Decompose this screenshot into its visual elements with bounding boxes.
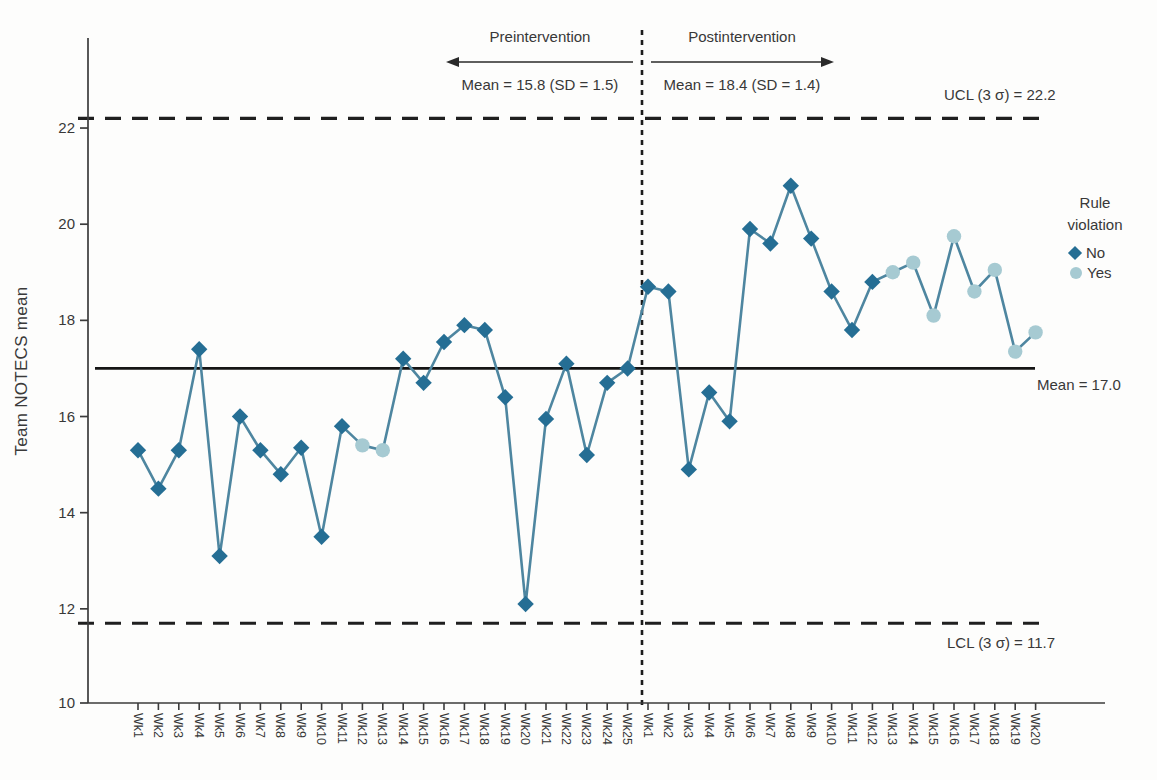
y-tick-label: 14 (58, 504, 75, 521)
postintervention-stats: Mean = 18.4 (SD = 1.4) (642, 76, 842, 93)
x-tick-label: Wk19 (498, 713, 512, 745)
x-tick-label: Wk14 (906, 713, 920, 745)
data-point-marker-yes (376, 443, 390, 457)
y-tick-label: 10 (58, 694, 75, 711)
data-point-marker-yes (355, 438, 369, 452)
x-tick-label: Wk9 (294, 713, 308, 738)
legend-item-no-label: No (1086, 244, 1105, 261)
x-tick-label: Wk22 (559, 713, 573, 745)
x-tick-label: Wk8 (783, 713, 797, 738)
x-tick-label: Wk15 (416, 713, 430, 745)
x-tick-label: Wk19 (1008, 713, 1022, 745)
x-tick-label: Wk12 (355, 713, 369, 745)
x-tick-label: Wk13 (375, 713, 389, 745)
mean-line-label: Mean = 17.0 (1037, 376, 1121, 393)
x-tick-label: Wk11 (335, 713, 349, 744)
x-tick-label: Wk11 (845, 713, 859, 744)
x-tick-label: Wk16 (437, 713, 451, 745)
lcl-label: LCL (3 σ) = 11.7 (947, 634, 1055, 651)
x-tick-label: Wk8 (273, 713, 287, 738)
data-point-marker-no (477, 322, 493, 338)
data-point-marker-no (864, 274, 880, 290)
data-point-marker-no (517, 596, 533, 612)
x-tick-label: Wk12 (865, 713, 879, 745)
x-tick-label: Wk6 (233, 713, 247, 738)
x-tick-label: Wk6 (743, 713, 757, 738)
x-tick-label: Wk18 (987, 713, 1001, 745)
ucl-label: UCL (3 σ) = 22.2 (944, 86, 1056, 103)
legend-item-yes: Yes (1070, 263, 1154, 283)
x-tick-label: Wk4 (702, 713, 716, 738)
x-tick-label: Wk2 (661, 713, 675, 738)
data-point-marker-yes (886, 265, 900, 279)
no-diamond-icon (1068, 245, 1082, 259)
x-tick-label: Wk10 (314, 713, 328, 745)
data-point-marker-no (313, 529, 329, 545)
x-tick-label: Wk14 (396, 713, 410, 745)
x-tick-label: Wk5 (212, 713, 226, 738)
x-tick-label: Wk10 (824, 713, 838, 745)
data-point-marker-yes (1008, 344, 1022, 358)
y-tick-label: 20 (58, 215, 75, 232)
data-point-marker-no (803, 230, 819, 246)
data-point-marker-no (701, 384, 717, 400)
y-axis-title: Team NOTECS mean (12, 286, 32, 455)
data-point-marker-yes (988, 263, 1002, 277)
data-point-marker-yes (967, 284, 981, 298)
series-line (138, 186, 1036, 604)
x-tick-label: Wk15 (926, 713, 940, 745)
data-point-marker-no (681, 461, 697, 477)
y-tick-label: 12 (58, 600, 75, 617)
y-tick-label: 22 (58, 119, 75, 136)
data-point-marker-no (742, 221, 758, 237)
x-tick-label: Wk17 (457, 713, 471, 745)
data-point-marker-no (211, 548, 227, 564)
data-point-marker-yes (926, 308, 940, 322)
x-tick-label: Wk7 (763, 713, 777, 738)
x-tick-label: Wk17 (967, 713, 981, 745)
data-point-marker-no (721, 413, 737, 429)
x-tick-label: Wk18 (477, 713, 491, 745)
data-point-marker-no (599, 375, 615, 391)
data-point-marker-yes (906, 255, 920, 269)
rule-violation-legend: Rule violation No Yes (1036, 192, 1154, 283)
x-tick-label: Wk3 (681, 713, 695, 738)
data-point-marker-no (619, 360, 635, 376)
legend-item-no: No (1070, 243, 1154, 263)
data-point-marker-no (191, 341, 207, 357)
data-point-marker-no (232, 408, 248, 424)
preintervention-arrowhead-icon (446, 57, 459, 67)
x-tick-label: Wk1 (131, 713, 145, 738)
legend-item-yes-label: Yes (1087, 264, 1111, 281)
data-point-marker-no (497, 389, 513, 405)
x-tick-label: Wk13 (885, 713, 899, 745)
legend-title: Rule violation (1055, 192, 1135, 236)
x-tick-label: Wk4 (192, 713, 206, 738)
x-tick-label: Wk3 (171, 713, 185, 738)
x-tick-label: Wk1 (641, 713, 655, 738)
data-point-marker-no (660, 283, 676, 299)
x-tick-label: Wk25 (620, 713, 634, 745)
x-tick-label: Wk9 (804, 713, 818, 738)
preintervention-label: Preintervention (440, 28, 640, 45)
data-point-marker-no (150, 480, 166, 496)
x-tick-label: Wk23 (579, 713, 593, 745)
data-point-marker-yes (1028, 325, 1042, 339)
x-tick-label: Wk7 (253, 713, 267, 738)
data-point-marker-no (579, 447, 595, 463)
yes-circle-icon (1070, 267, 1082, 279)
x-tick-label: Wk20 (1028, 713, 1042, 745)
data-point-marker-no (823, 283, 839, 299)
data-point-marker-no (130, 442, 146, 458)
x-tick-label: Wk2 (151, 713, 165, 738)
postintervention-arrowhead-icon (821, 57, 834, 67)
spc-chart-figure: 10121416182022Wk1Wk2Wk3Wk4Wk5Wk6Wk7Wk8Wk… (0, 0, 1157, 780)
x-tick-label: Wk21 (539, 713, 553, 745)
x-tick-label: Wk16 (947, 713, 961, 745)
data-point-marker-no (783, 178, 799, 194)
y-tick-label: 18 (58, 311, 75, 328)
x-tick-label: Wk5 (722, 713, 736, 738)
preintervention-stats: Mean = 15.8 (SD = 1.5) (440, 76, 640, 93)
data-point-marker-no (171, 442, 187, 458)
y-tick-label: 16 (58, 408, 75, 425)
